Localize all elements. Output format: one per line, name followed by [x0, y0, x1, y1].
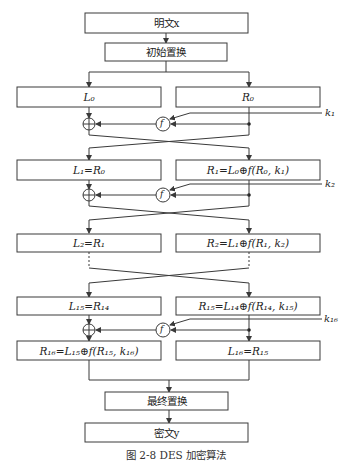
r0-label: R₀ [176, 91, 320, 103]
final-permutation-label: 最终置换 [105, 395, 228, 407]
r15-label: R₁₅=L₁₄⊕f(R₁₄, k₁₅) [176, 300, 320, 312]
key-line-1 [170, 113, 322, 119]
key-k2-label: k₂ [325, 178, 335, 189]
f-function-label-1: f [160, 118, 163, 128]
l2-label: L₂=R₁ [17, 237, 161, 249]
r2-label: R₂=L₁⊕f(R₁, k₂) [176, 237, 320, 249]
plaintext-label: 明文x [85, 17, 248, 29]
initial-permutation-label: 初始置换 [105, 46, 227, 58]
l1-label: L₁=R₀ [17, 164, 161, 176]
r16-label: R₁₆=L₁₅⊕f(R₁₅, k₁₆) [17, 345, 161, 357]
key-k1-label: k₁ [325, 107, 335, 118]
key-k16-label: k₁₆ [324, 313, 338, 324]
l0-label: L₀ [17, 91, 161, 103]
l15-label: L₁₅=R₁₄ [17, 300, 161, 312]
ciphertext-label: 密文y [85, 427, 248, 439]
figure-caption: 图 2-8 DES 加密算法 [0, 447, 352, 462]
f-function-label-2: f [160, 189, 163, 199]
key-line-16 [170, 319, 322, 325]
key-line-2 [170, 184, 322, 190]
l16-label: L₁₆=R₁₅ [176, 345, 320, 357]
f-function-label-16: f [160, 324, 163, 334]
merge-bar [89, 360, 249, 380]
r1-label: R₁=L₀⊕f(R₀, k₁) [176, 164, 320, 176]
